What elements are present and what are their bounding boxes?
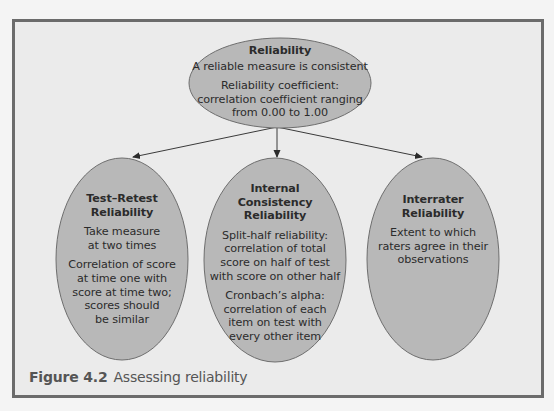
node-interrater: Interrater Reliability Extent to which r… — [368, 193, 498, 267]
root-node-title: Reliability — [190, 44, 370, 58]
node-interrater-title: Interrater Reliability — [368, 193, 498, 220]
node-internal-consistency: Internal Consistency Reliability Split-h… — [205, 182, 345, 344]
arrow-to-interrater — [277, 127, 422, 157]
connectors — [133, 127, 422, 157]
node-test-retest: Test–Retest Reliability Take measure at … — [62, 192, 182, 326]
node-test-retest-description: Take measure at two times — [62, 225, 182, 252]
root-node-definition: A reliable measure is consistent — [190, 60, 370, 74]
figure-caption-text: Assessing reliability — [113, 369, 247, 385]
node-split-half-description: Split-half reliability: correlation of t… — [205, 229, 345, 283]
arrow-to-test-retest — [133, 127, 277, 157]
root-node-coefficient: Reliability coefficient: correlation coe… — [190, 79, 370, 120]
node-test-retest-detail: Correlation of score at time one with sc… — [62, 258, 182, 326]
node-interrater-description: Extent to which raters agree in their ob… — [368, 226, 498, 267]
figure-caption: Figure 4.2Assessing reliability — [29, 369, 247, 385]
node-internal-consistency-title: Internal Consistency Reliability — [205, 182, 345, 223]
node-cronbach-alpha-description: Cronbach’s alpha: correlation of each it… — [205, 289, 345, 343]
node-test-retest-title: Test–Retest Reliability — [62, 192, 182, 219]
figure-caption-label: Figure 4.2 — [29, 369, 107, 385]
root-node-reliability: Reliability A reliable measure is consis… — [190, 44, 370, 120]
